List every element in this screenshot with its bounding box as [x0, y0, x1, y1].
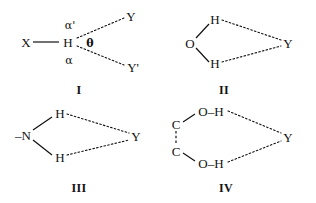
- group-oh-top: O–H: [198, 105, 223, 118]
- group-oh-bottom: O–H: [198, 157, 223, 170]
- atom-o: O: [185, 37, 194, 50]
- panel-label-iv: IV: [219, 182, 233, 194]
- atom-y-acceptor: Y: [283, 131, 292, 144]
- atom-n: –N: [15, 129, 31, 142]
- atom-c-bottom: C: [172, 145, 181, 158]
- angle-alpha-prime-annotation: α': [65, 20, 75, 31]
- atom-h-bottom: H: [55, 151, 64, 164]
- bond-h-yprime-dotted: [77, 46, 124, 65]
- bond-cbottom-obottom: [183, 153, 195, 161]
- bond-htop-y-dotted-iii: [67, 114, 129, 133]
- atom-h-top: H: [210, 13, 219, 26]
- bond-ctop-otop: [183, 114, 195, 122]
- atom-yprime-acceptor: Y': [127, 61, 139, 74]
- angle-theta-annotation: θ: [86, 38, 93, 49]
- atom-y-acceptor: Y: [131, 130, 140, 143]
- bond-ohtop-y-dotted: [228, 111, 281, 133]
- panel-label-iii: III: [72, 182, 87, 194]
- bond-n-h-bottom: [33, 140, 52, 155]
- bond-o-h-top: [196, 24, 209, 38]
- angle-alpha-annotation: α: [65, 55, 72, 66]
- atom-y-acceptor: Y: [126, 10, 135, 23]
- atom-h-donor: H: [63, 36, 72, 49]
- atom-y-acceptor: Y: [283, 37, 292, 50]
- atom-h-top: H: [55, 107, 64, 120]
- bond-hbottom-y-dotted-iii: [67, 140, 129, 155]
- bond-h-y-dotted: [77, 18, 124, 38]
- atom-h-bottom: H: [210, 57, 219, 70]
- atom-c-top: C: [172, 118, 181, 131]
- panel-label-ii: II: [219, 84, 229, 96]
- panel-label-i: I: [77, 84, 82, 96]
- bond-lines-layer: [0, 0, 316, 203]
- bond-htop-y-dotted: [222, 20, 281, 40]
- bond-n-h-top: [33, 117, 52, 130]
- bond-hbottom-y-dotted: [222, 46, 281, 62]
- bond-o-h-bottom: [196, 48, 209, 62]
- hydrogen-bonding-figure: X H Y Y' α' α θ I O H H Y II –N H H Y II…: [0, 0, 316, 203]
- bond-ohbottom-y-dotted: [228, 141, 281, 162]
- atom-x: X: [21, 36, 30, 49]
